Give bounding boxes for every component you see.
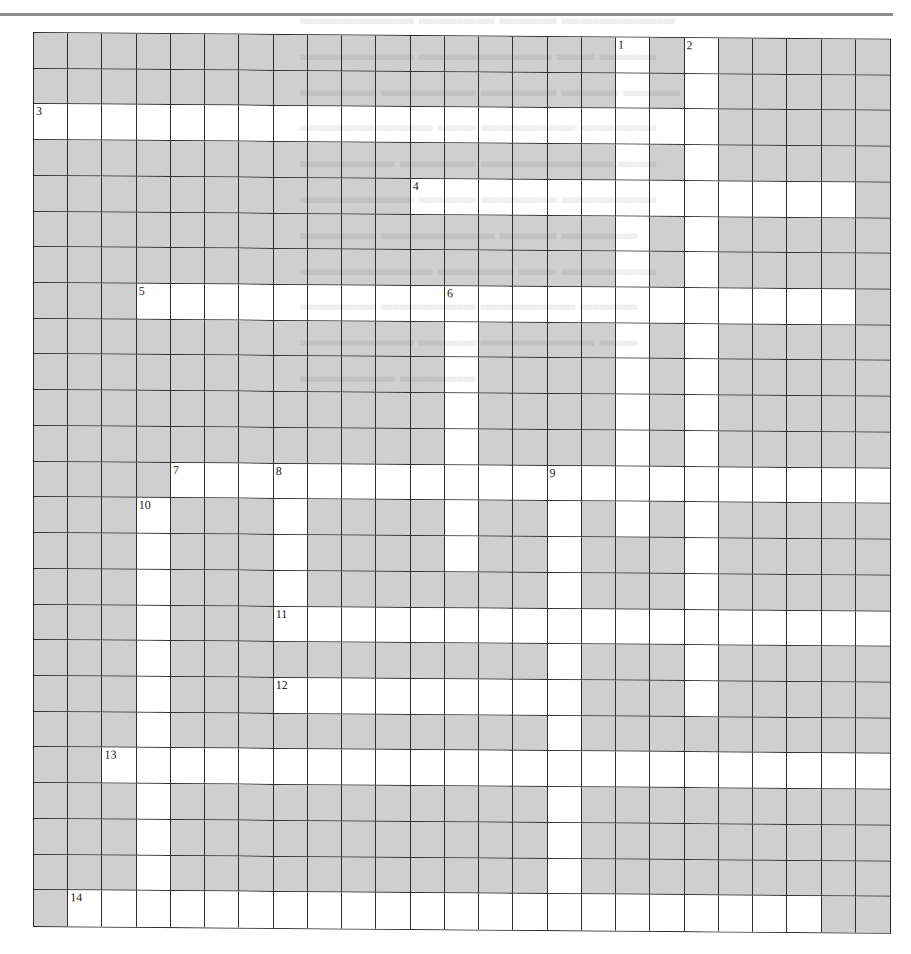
crossword-cell-open[interactable] (411, 286, 445, 322)
crossword-cell-open[interactable] (685, 74, 719, 110)
crossword-cell-open[interactable]: 14 (68, 891, 102, 927)
crossword-cell-open[interactable] (548, 680, 582, 716)
crossword-cell-open[interactable] (787, 468, 821, 504)
crossword-cell-open[interactable] (616, 752, 650, 788)
crossword-cell-open[interactable] (548, 180, 582, 216)
crossword-cell-open[interactable] (411, 750, 445, 786)
crossword-cell-open[interactable] (137, 855, 171, 891)
crossword-cell-open[interactable] (445, 465, 479, 501)
crossword-cell-open[interactable] (137, 748, 171, 784)
crossword-cell-open[interactable]: 10 (137, 498, 171, 534)
crossword-cell-open[interactable] (137, 105, 171, 141)
crossword-cell-open[interactable]: 5 (137, 284, 171, 320)
crossword-cell-open[interactable] (616, 216, 650, 252)
crossword-cell-open[interactable]: 3 (34, 104, 68, 140)
crossword-cell-open[interactable] (137, 712, 171, 748)
crossword-cell-open[interactable] (137, 677, 171, 713)
crossword-cell-open[interactable] (787, 610, 821, 646)
crossword-cell-open[interactable] (445, 429, 479, 465)
crossword-cell-open[interactable] (753, 610, 787, 646)
crossword-cell-open[interactable] (753, 289, 787, 325)
crossword-cell-open[interactable] (719, 753, 753, 789)
crossword-cell-open[interactable] (616, 466, 650, 502)
crossword-cell-open[interactable] (685, 753, 719, 789)
crossword-cell-open[interactable] (548, 609, 582, 645)
crossword-cell-open[interactable] (308, 678, 342, 714)
crossword-cell-open[interactable] (445, 536, 479, 572)
crossword-cell-open[interactable]: 12 (274, 678, 308, 714)
crossword-cell-open[interactable] (787, 896, 821, 932)
crossword-cell-open[interactable] (685, 538, 719, 574)
crossword-cell-open[interactable] (445, 358, 479, 394)
crossword-cell-open[interactable] (650, 895, 684, 931)
crossword-cell-open[interactable]: 11 (274, 606, 308, 642)
crossword-cell-open[interactable]: 2 (685, 38, 719, 74)
crossword-cell-open[interactable] (650, 288, 684, 324)
crossword-cell-open[interactable] (685, 645, 719, 681)
crossword-cell-open[interactable] (616, 73, 650, 109)
crossword-cell-open[interactable] (239, 463, 273, 499)
crossword-cell-open[interactable] (376, 107, 410, 143)
crossword-cell-open[interactable]: 9 (548, 466, 582, 502)
crossword-cell-open[interactable] (616, 288, 650, 324)
crossword-cell-open[interactable] (274, 535, 308, 571)
crossword-cell-open[interactable] (239, 285, 273, 321)
crossword-cell-open[interactable] (822, 754, 856, 790)
crossword-cell-open[interactable] (274, 106, 308, 142)
crossword-cell-open[interactable] (376, 286, 410, 322)
crossword-cell-open[interactable] (753, 467, 787, 503)
crossword-cell-open[interactable] (513, 465, 547, 501)
crossword-cell-open[interactable] (685, 181, 719, 217)
crossword-cell-open[interactable] (205, 463, 239, 499)
crossword-cell-open[interactable] (753, 182, 787, 218)
crossword-cell-open[interactable] (513, 751, 547, 787)
crossword-cell-open[interactable] (685, 895, 719, 931)
crossword-cell-open[interactable] (548, 108, 582, 144)
crossword-cell-open[interactable] (445, 501, 479, 537)
crossword-cell-open[interactable] (205, 892, 239, 928)
crossword-cell-open[interactable] (411, 679, 445, 715)
crossword-cell-open[interactable] (685, 431, 719, 467)
crossword-cell-open[interactable] (445, 751, 479, 787)
crossword-cell-open[interactable] (239, 892, 273, 928)
crossword-cell-open[interactable] (787, 182, 821, 218)
crossword-cell-open[interactable] (856, 611, 890, 647)
crossword-cell-open[interactable] (411, 465, 445, 501)
crossword-cell-open[interactable] (582, 752, 616, 788)
crossword-cell-open[interactable] (308, 607, 342, 643)
crossword-cell-open[interactable] (308, 750, 342, 786)
crossword-cell-open[interactable] (650, 109, 684, 145)
crossword-cell-open[interactable] (685, 252, 719, 288)
crossword-cell-open[interactable] (822, 468, 856, 504)
crossword-cell-open[interactable] (616, 323, 650, 359)
crossword-cell-open[interactable] (685, 110, 719, 146)
crossword-cell-open[interactable] (685, 217, 719, 253)
crossword-cell-open[interactable] (102, 891, 136, 927)
crossword-cell-open[interactable] (376, 607, 410, 643)
crossword-cell-open[interactable] (650, 609, 684, 645)
crossword-cell-open[interactable] (616, 609, 650, 645)
crossword-cell-open[interactable] (137, 891, 171, 927)
crossword-cell-open[interactable] (411, 607, 445, 643)
crossword-cell-open[interactable] (856, 468, 890, 504)
crossword-cell-open[interactable] (582, 287, 616, 323)
crossword-cell-open[interactable] (616, 180, 650, 216)
crossword-cell-open[interactable] (513, 680, 547, 716)
crossword-cell-open[interactable] (445, 679, 479, 715)
crossword-cell-open[interactable] (616, 252, 650, 288)
crossword-cell-open[interactable] (308, 892, 342, 928)
crossword-cell-open[interactable] (548, 787, 582, 823)
crossword-cell-open[interactable] (171, 748, 205, 784)
crossword-cell-open[interactable] (205, 284, 239, 320)
crossword-cell-open[interactable]: 1 (616, 38, 650, 74)
crossword-cell-open[interactable] (582, 895, 616, 931)
crossword-cell-open[interactable] (787, 289, 821, 325)
crossword-cell-open[interactable] (650, 466, 684, 502)
crossword-cell-open[interactable] (616, 430, 650, 466)
crossword-cell-open[interactable] (239, 749, 273, 785)
crossword-cell-open[interactable] (308, 285, 342, 321)
crossword-cell-open[interactable] (479, 465, 513, 501)
crossword-cell-open[interactable] (513, 894, 547, 930)
crossword-cell-open[interactable] (753, 896, 787, 932)
crossword-cell-open[interactable] (376, 464, 410, 500)
